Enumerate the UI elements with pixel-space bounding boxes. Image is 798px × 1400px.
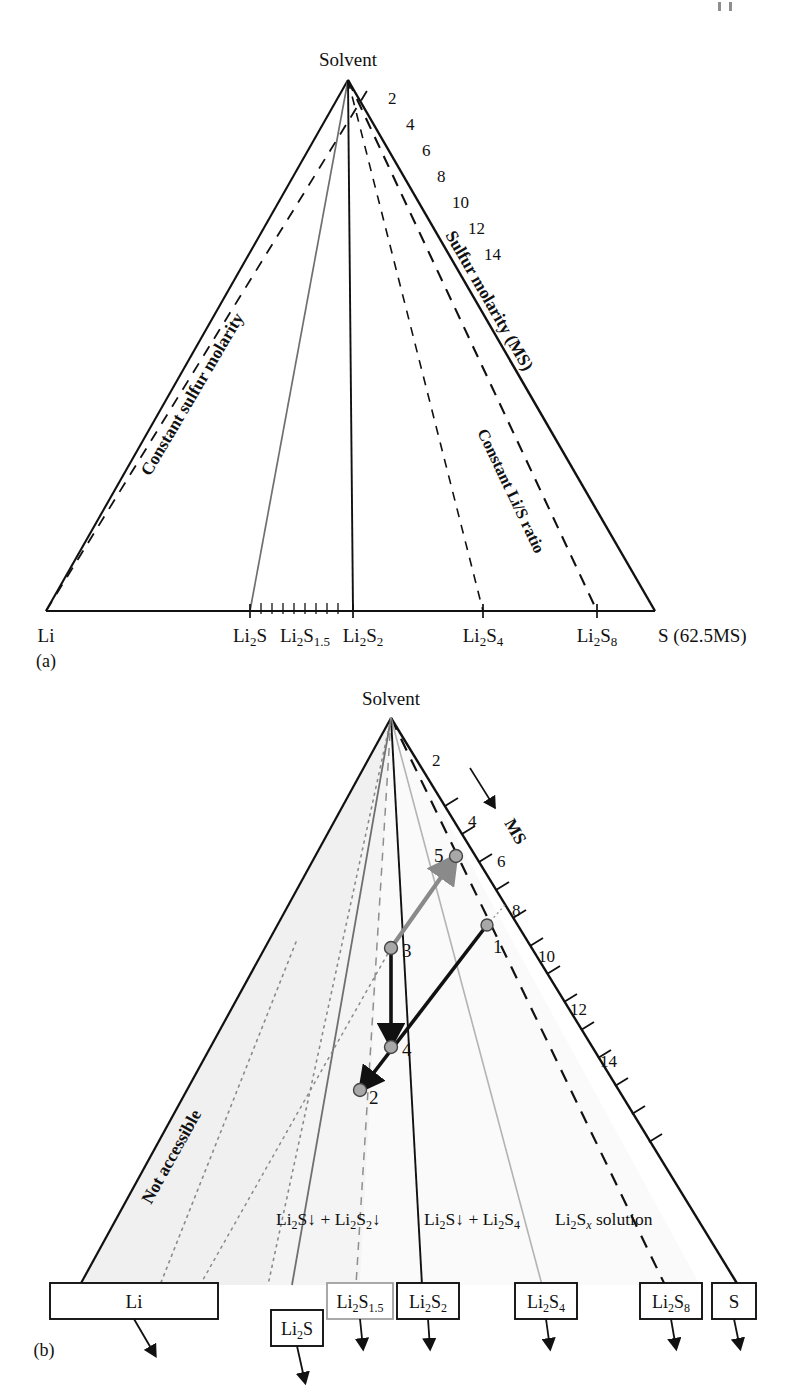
panel-b-box-li2s[interactable]: Li2S — [271, 1310, 323, 1346]
panel-b-box-li2s2[interactable]: Li2S2 — [397, 1283, 459, 1319]
panel-b-molarity-tick-14: 14 — [600, 1052, 618, 1071]
panel-b-point-label-1: 1 — [493, 936, 503, 957]
panel-b-phase-label-2: Li2S↓ + Li2S4 — [424, 1209, 520, 1232]
panel-b-point-2[interactable] — [354, 1084, 367, 1097]
panel-b-point-1[interactable] — [481, 919, 493, 931]
panel-b-point-label-4: 4 — [402, 1039, 412, 1060]
panel-b-molarity-tick-6: 6 — [497, 852, 506, 871]
panel-b-point-label-3: 3 — [402, 940, 412, 961]
panel-a-apex-label: Solvent — [319, 49, 378, 70]
panel-a-molarity-tick-8: 8 — [437, 167, 446, 186]
panel-b-molarity-tick-2: 2 — [432, 751, 441, 770]
panel-a-molarity-tick-12: 12 — [468, 219, 485, 238]
panel-b-box-s[interactable]: S — [712, 1283, 756, 1319]
panel-b-molarity-tick-10: 10 — [538, 947, 555, 966]
panel-b-box-li2s4[interactable]: Li2S4 — [515, 1283, 577, 1319]
panel-b-caption: (b) — [34, 1340, 55, 1361]
panel-a-label-s-62p5ms: S (62.5MS) — [658, 625, 747, 647]
panel-b-apex-label: Solvent — [362, 688, 421, 709]
panel-b-box-li2s8[interactable]: Li2S8 — [640, 1283, 702, 1319]
panel-b-point-3[interactable] — [385, 942, 398, 955]
panel-b-box-li-label: Li — [126, 1291, 143, 1312]
panel-b-point-label-5: 5 — [434, 845, 444, 866]
panel-b-point-5[interactable] — [450, 850, 463, 863]
panel-b-molarity-tick-12: 12 — [570, 1000, 587, 1019]
panel-b-molarity-tick-8: 8 — [512, 901, 521, 920]
panel-b-phase-label-3: Li2Sx solution — [555, 1209, 653, 1232]
panel-b-box-s-label: S — [729, 1291, 740, 1312]
panel-a-molarity-tick-10: 10 — [452, 193, 469, 212]
panel-a-molarity-tick-6: 6 — [422, 141, 431, 160]
panel-b-box-li2s15[interactable]: Li2S1.5 — [327, 1283, 393, 1319]
panel-a-molarity-tick-2: 2 — [388, 89, 397, 108]
panel-b-point-4[interactable] — [385, 1041, 398, 1054]
panel-b-phase-labels: Li2S↓ + Li2S2↓ Li2S↓ + Li2S4 Li2Sx solut… — [276, 1209, 653, 1232]
panel-b-molarity-tick-4: 4 — [468, 812, 477, 831]
panel-b-point-label-2: 2 — [369, 1087, 379, 1108]
panel-a-molarity-tick-14: 14 — [484, 245, 502, 264]
panel-a-label-li: Li — [38, 625, 55, 646]
panel-a-molarity-tick-4: 4 — [406, 115, 415, 134]
panel-b-box-li[interactable]: Li — [50, 1283, 218, 1319]
panel-a-caption: (a) — [36, 651, 56, 672]
figure-ternary-phase-diagram: Solvent — [0, 0, 798, 1400]
